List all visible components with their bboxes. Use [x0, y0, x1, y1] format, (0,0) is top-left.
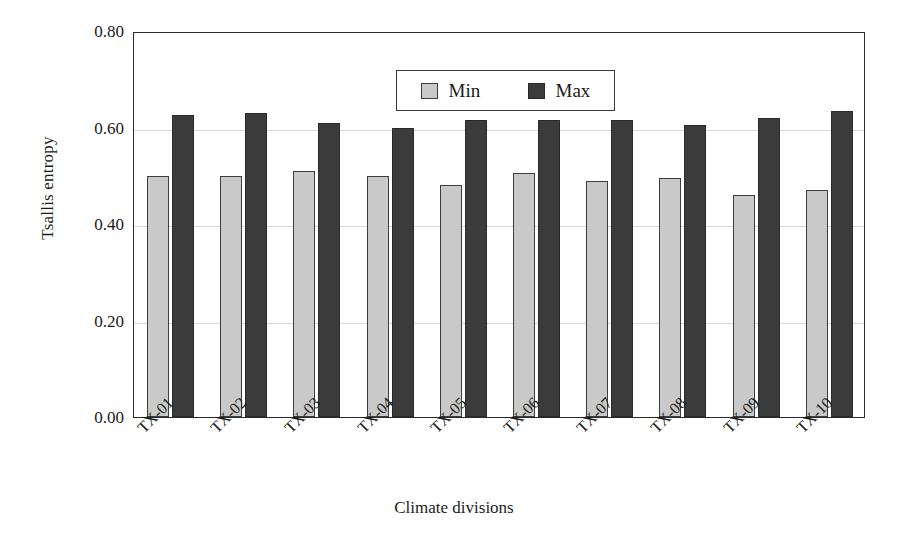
bar-group — [280, 33, 353, 417]
y-tick-label: 0.40 — [66, 215, 124, 235]
bar-max-tx-06 — [538, 120, 560, 417]
bar-min-tx-09 — [733, 195, 755, 417]
bar-min-tx-06 — [513, 173, 535, 417]
bar-min-tx-07 — [586, 181, 608, 417]
y-axis-title: Tsallis entropy — [38, 68, 58, 308]
bar-min-tx-03 — [293, 171, 315, 417]
bar-group — [207, 33, 280, 417]
max-swatch-icon — [528, 83, 545, 99]
legend: Min Max — [396, 70, 615, 111]
legend-label-max: Max — [556, 80, 591, 102]
chart-figure: Tsallis entropy 0.800.600.400.200.00 Min… — [0, 0, 908, 537]
x-axis-title: Climate divisions — [0, 498, 908, 518]
min-swatch-icon — [421, 83, 438, 99]
bar-max-tx-07 — [611, 120, 633, 417]
bar-max-tx-05 — [465, 120, 487, 417]
bar-max-tx-08 — [684, 125, 706, 417]
y-tick-label: 0.00 — [66, 408, 124, 428]
legend-entry-min: Min — [421, 80, 481, 102]
y-tick-label: 0.60 — [66, 119, 124, 139]
bar-group — [646, 33, 719, 417]
bar-max-tx-10 — [831, 111, 853, 417]
legend-label-min: Min — [449, 80, 481, 102]
bar-min-tx-01 — [147, 176, 169, 417]
bar-max-tx-02 — [245, 113, 267, 417]
bar-max-tx-04 — [392, 128, 414, 418]
bar-min-tx-04 — [367, 176, 389, 417]
bar-group — [720, 33, 793, 417]
bar-min-tx-08 — [659, 178, 681, 417]
bar-min-tx-05 — [440, 185, 462, 417]
y-tick-label: 0.20 — [66, 312, 124, 332]
bar-max-tx-03 — [318, 123, 340, 417]
bar-group — [134, 33, 207, 417]
bar-min-tx-10 — [806, 190, 828, 417]
legend-entry-max: Max — [528, 80, 591, 102]
bar-max-tx-01 — [172, 115, 194, 417]
y-axis-tick-labels: 0.800.600.400.200.00 — [62, 0, 124, 537]
y-tick-label: 0.80 — [66, 22, 124, 42]
bar-min-tx-02 — [220, 176, 242, 417]
bar-max-tx-09 — [758, 118, 780, 417]
bar-group — [793, 33, 866, 417]
